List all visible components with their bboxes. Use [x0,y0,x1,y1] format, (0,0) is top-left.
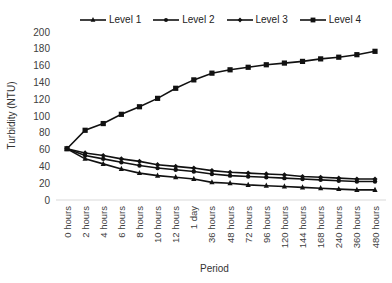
x-tick-label: 36 hours [206,206,217,243]
y-tick-label: 100 [33,111,50,122]
x-tick-label: 4 hours [98,206,109,238]
x-tick-label: 72 hours [243,206,254,243]
legend-item: Level 2 [153,14,214,25]
x-tick-label: 96 hours [261,206,272,243]
y-tick-label: 0 [44,195,50,206]
legend-item: Level 3 [227,14,288,25]
series-level-1 [64,146,377,192]
y-tick-label: 80 [39,127,51,138]
x-tick-label: 48 hours [225,206,236,243]
y-tick-label: 200 [33,27,50,38]
line-chart: 0204060801001201401601802000 hours2 hour… [0,0,392,283]
x-axis-label: Period [200,263,229,274]
x-tick-label: 1 day [188,206,199,229]
square-marker-icon [300,16,326,24]
x-tick-label: 0 hours [62,206,73,238]
circle-marker-icon [153,16,179,24]
x-tick-label: 120 hours [279,206,290,249]
y-axis-label: Turbidity (NTU) [6,82,17,150]
x-tick-label: 360 hours [351,206,362,249]
y-tick-label: 40 [39,161,51,172]
x-tick-label: 8 hours [134,206,145,238]
legend-item: Level 1 [80,14,141,25]
x-tick-label: 480 hours [370,206,381,249]
legend-label: Level 2 [182,14,214,25]
x-tick-label: 2 hours [80,206,91,238]
legend-item: Level 4 [300,14,361,25]
x-tick-label: 6 hours [116,206,127,238]
y-tick-label: 180 [33,43,50,54]
x-tick-label: 168 hours [315,206,326,249]
legend-label: Level 1 [109,14,141,25]
diamond-marker-icon [227,16,253,24]
y-tick-label: 20 [39,178,51,189]
legend-label: Level 4 [329,14,361,25]
x-tick-label: 144 hours [297,206,308,249]
series-level-4 [64,49,377,152]
y-tick-label: 120 [33,94,50,105]
legend-label: Level 3 [256,14,288,25]
series-level-3 [64,146,377,181]
x-tick-label: 12 hours [170,206,181,243]
triangle-marker-icon [80,16,106,24]
x-tick-label: 10 hours [152,206,163,243]
x-tick-label: 240 hours [333,206,344,249]
y-tick-label: 60 [39,144,51,155]
y-tick-label: 160 [33,60,50,71]
y-tick-label: 140 [33,77,50,88]
legend: Level 1Level 2Level 3Level 4 [80,14,361,25]
